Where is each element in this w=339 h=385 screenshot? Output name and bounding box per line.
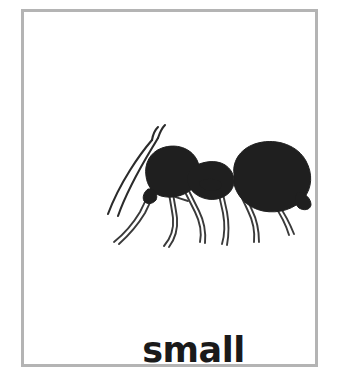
ant-illustration	[48, 24, 339, 324]
ant-head-mandible	[143, 189, 157, 204]
ant-waist	[200, 179, 222, 191]
word-label: small	[142, 333, 244, 368]
card-frame: small	[21, 9, 318, 367]
word-area: small	[48, 324, 339, 376]
ant-drawing	[48, 24, 339, 324]
flashcard: small	[0, 0, 339, 385]
ant-abdomen-tip	[295, 192, 311, 210]
ant-body	[143, 142, 311, 212]
